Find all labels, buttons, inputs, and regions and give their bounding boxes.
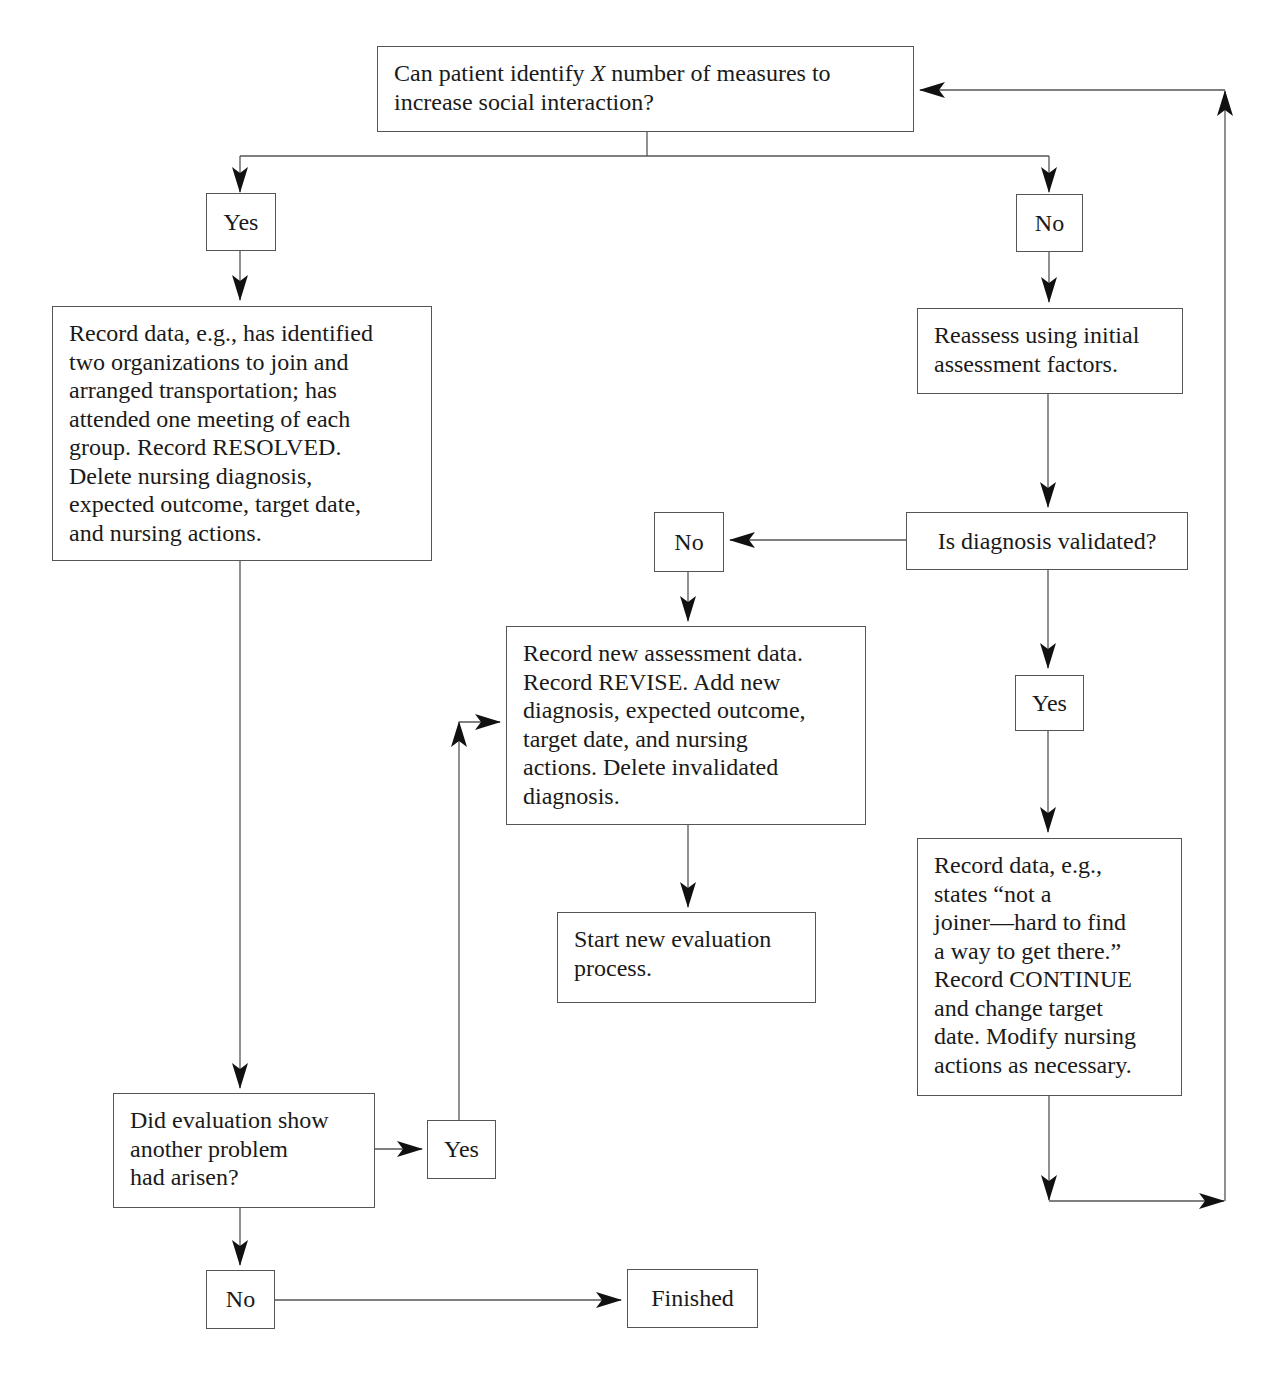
no-2-label: No: [674, 528, 703, 557]
node-finished: Finished: [627, 1269, 758, 1328]
node-record-revise: Record new assessment data. Record REVIS…: [506, 626, 866, 825]
node-no-2: No: [654, 512, 724, 572]
no-1-label: No: [1035, 209, 1064, 238]
yes-3-label: Yes: [444, 1135, 479, 1164]
node-another-problem: Did evaluation show another problem had …: [113, 1093, 375, 1208]
start-new-eval-text: Start new evaluation process.: [574, 926, 771, 981]
node-reassess: Reassess using initial assessment factor…: [917, 308, 1183, 394]
node-record-resolved: Record data, e.g., has identified two or…: [52, 306, 432, 561]
node-start-question: Can patient identify X number of measure…: [377, 46, 914, 132]
record-revise-text: Record new assessment data. Record REVIS…: [523, 640, 806, 809]
node-no-1: No: [1016, 194, 1083, 252]
start-question-text-before: Can patient identify: [394, 60, 591, 86]
flowchart-canvas: Can patient identify X number of measure…: [0, 0, 1277, 1378]
another-problem-text: Did evaluation show another problem had …: [130, 1107, 329, 1190]
record-resolved-text: Record data, e.g., has identified two or…: [69, 320, 373, 546]
yes-2-label: Yes: [1032, 689, 1067, 718]
node-yes-2: Yes: [1015, 675, 1084, 731]
node-yes-3: Yes: [427, 1120, 496, 1179]
node-no-3: No: [206, 1270, 275, 1329]
no-3-label: No: [226, 1285, 255, 1314]
node-yes-1: Yes: [206, 193, 276, 251]
node-record-continue: Record data, e.g., states “not a joiner—…: [917, 838, 1182, 1096]
start-question-variable: X: [591, 60, 606, 86]
node-diagnosis-validated: Is diagnosis validated?: [906, 512, 1188, 570]
reassess-text: Reassess using initial assessment factor…: [934, 322, 1139, 377]
node-start-new-evaluation: Start new evaluation process.: [557, 912, 816, 1003]
diagnosis-validated-text: Is diagnosis validated?: [938, 527, 1157, 556]
finished-label: Finished: [651, 1284, 734, 1313]
yes-1-label: Yes: [224, 208, 259, 237]
record-continue-text: Record data, e.g., states “not a joiner—…: [934, 852, 1136, 1078]
